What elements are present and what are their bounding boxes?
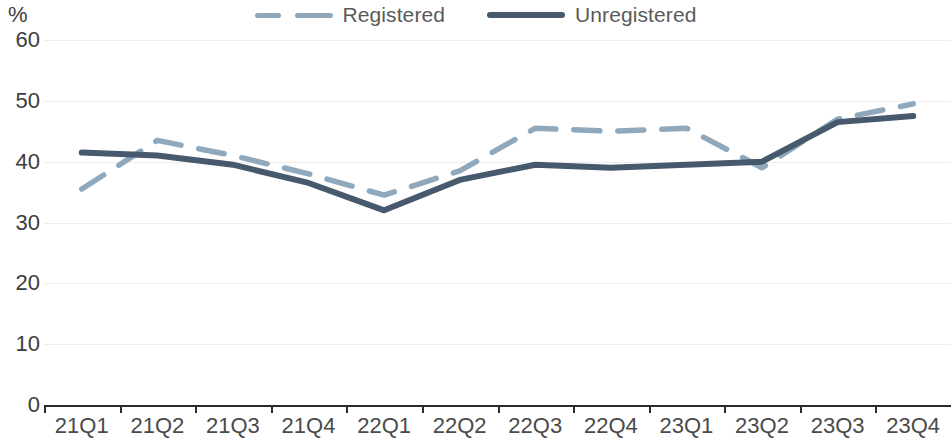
x-axis-tick	[573, 405, 575, 413]
y-axis-tick-label: 60	[16, 27, 40, 53]
x-axis-tick	[271, 405, 273, 413]
y-axis-tick-label: 20	[16, 270, 40, 296]
x-axis-tick-label: 22Q3	[508, 413, 562, 439]
x-axis-tick-label: 23Q3	[811, 413, 865, 439]
y-axis-tick-label: 0	[28, 392, 40, 418]
x-axis-tick-label: 23Q2	[735, 413, 789, 439]
y-axis-tick-label: 40	[16, 149, 40, 175]
x-axis-tick-label: 22Q1	[357, 413, 411, 439]
series-line-unregistered	[82, 116, 913, 210]
x-axis-tick	[498, 405, 500, 413]
dashed-line-swatch-icon	[255, 13, 333, 18]
x-axis-tick-label: 21Q2	[130, 413, 184, 439]
y-axis-tick-label: 50	[16, 88, 40, 114]
y-axis-tick-label: 30	[16, 210, 40, 236]
series-lines	[44, 40, 951, 405]
x-axis-tick-label: 22Q4	[584, 413, 638, 439]
x-axis-tick	[800, 405, 802, 413]
legend-item-unregistered[interactable]: Unregistered	[487, 3, 696, 27]
x-axis-tick	[724, 405, 726, 413]
chart-legend: Registered Unregistered	[0, 0, 951, 30]
x-axis-tick	[875, 405, 877, 413]
y-axis-tick-label: 10	[16, 331, 40, 357]
legend-label-unregistered: Unregistered	[575, 3, 696, 27]
x-axis-tick	[346, 405, 348, 413]
x-axis-tick-label: 23Q1	[660, 413, 714, 439]
y-axis-tick-labels: 0102030405060	[0, 40, 40, 405]
y-axis-unit-label: %	[8, 2, 28, 28]
x-axis-tick-label: 23Q4	[886, 413, 940, 439]
plot-area	[44, 40, 951, 405]
x-axis-tick	[120, 405, 122, 413]
x-axis-tick	[422, 405, 424, 413]
solid-line-swatch-icon	[487, 12, 565, 18]
x-axis-tick	[44, 405, 46, 413]
x-axis-tick-label: 21Q4	[282, 413, 336, 439]
legend-label-registered: Registered	[343, 3, 446, 27]
x-axis-tick-label: 22Q2	[433, 413, 487, 439]
line-chart: Registered Unregistered % 0102030405060 …	[0, 0, 951, 442]
x-axis-tick-label: 21Q1	[55, 413, 109, 439]
x-axis-tick-label: 21Q3	[206, 413, 260, 439]
x-axis-ticks	[44, 405, 951, 413]
legend-item-registered[interactable]: Registered	[255, 3, 446, 27]
x-axis-tick-labels: 21Q121Q221Q321Q422Q122Q222Q322Q423Q123Q2…	[44, 413, 951, 442]
x-axis-tick	[649, 405, 651, 413]
x-axis-tick	[195, 405, 197, 413]
